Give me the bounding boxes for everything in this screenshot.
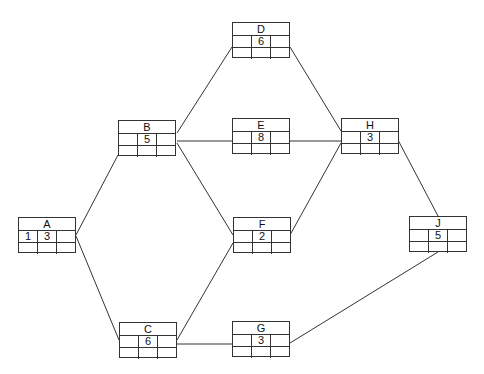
node-cell bbox=[253, 243, 272, 254]
node-cell bbox=[139, 348, 158, 359]
node-cell bbox=[138, 146, 157, 157]
node-cell bbox=[410, 242, 429, 253]
edge-f-h bbox=[290, 143, 341, 235]
node-j: J5 bbox=[409, 216, 467, 252]
node-cell bbox=[429, 242, 448, 253]
node-cell bbox=[342, 144, 361, 155]
node-cell bbox=[448, 242, 466, 253]
node-duration-row: 5 bbox=[119, 134, 175, 146]
node-cell bbox=[233, 132, 252, 143]
edge-a-c bbox=[76, 236, 119, 340]
node-cell bbox=[158, 336, 176, 347]
node-cell bbox=[271, 36, 289, 47]
node-duration-row: 3 bbox=[342, 132, 398, 144]
node-cell: 5 bbox=[138, 134, 157, 145]
edge-g-j bbox=[290, 252, 438, 343]
edge-b-f bbox=[177, 143, 233, 235]
node-cell bbox=[271, 335, 289, 346]
edge-b-d bbox=[177, 47, 232, 133]
node-schedule-row bbox=[234, 243, 290, 254]
node-cell bbox=[120, 336, 139, 347]
node-duration-row: 5 bbox=[410, 230, 466, 242]
node-e: E8 bbox=[232, 118, 290, 154]
node-cell bbox=[271, 48, 289, 59]
edge-a-b bbox=[76, 155, 118, 235]
node-duration-row: 2 bbox=[234, 231, 290, 243]
node-cell bbox=[233, 335, 252, 346]
edge-d-h bbox=[290, 47, 341, 131]
node-a: A13 bbox=[18, 217, 76, 253]
node-cell bbox=[234, 231, 253, 242]
node-cell bbox=[272, 231, 290, 242]
node-cell bbox=[234, 243, 253, 254]
node-cell bbox=[252, 144, 271, 155]
node-cell bbox=[272, 243, 290, 254]
node-cell: 6 bbox=[252, 36, 271, 47]
node-schedule-row bbox=[342, 144, 398, 155]
node-cell bbox=[252, 48, 271, 59]
node-cell bbox=[380, 144, 398, 155]
node-cell bbox=[157, 146, 175, 157]
node-duration-row: 8 bbox=[233, 132, 289, 144]
node-cell bbox=[252, 347, 271, 358]
node-cell bbox=[233, 144, 252, 155]
node-cell bbox=[448, 230, 466, 241]
node-cell bbox=[57, 231, 75, 242]
node-cell: 5 bbox=[429, 230, 448, 241]
node-cell: 3 bbox=[361, 132, 380, 143]
node-cell bbox=[120, 348, 139, 359]
node-cell bbox=[119, 146, 138, 157]
node-cell bbox=[233, 347, 252, 358]
edge-c-f bbox=[177, 243, 233, 340]
node-cell bbox=[157, 134, 175, 145]
node-c: C6 bbox=[119, 322, 177, 358]
node-cell bbox=[271, 347, 289, 358]
node-schedule-row bbox=[233, 144, 289, 155]
node-cell bbox=[19, 243, 38, 254]
node-schedule-row bbox=[233, 48, 289, 59]
node-schedule-row bbox=[119, 146, 175, 157]
node-cell bbox=[158, 348, 176, 359]
node-cell: 3 bbox=[252, 335, 271, 346]
node-duration-row: 6 bbox=[120, 336, 176, 348]
node-cell bbox=[271, 132, 289, 143]
node-cell bbox=[119, 134, 138, 145]
node-duration-row: 13 bbox=[19, 231, 75, 243]
node-cell bbox=[271, 144, 289, 155]
node-cell bbox=[233, 36, 252, 47]
node-g: G3 bbox=[232, 321, 290, 357]
node-schedule-row bbox=[19, 243, 75, 254]
node-d: D6 bbox=[232, 22, 290, 58]
node-cell bbox=[342, 132, 361, 143]
node-cell bbox=[38, 243, 57, 254]
node-cell: 3 bbox=[38, 231, 57, 242]
node-cell bbox=[410, 230, 429, 241]
node-cell bbox=[380, 132, 398, 143]
node-cell: 6 bbox=[139, 336, 158, 347]
node-cell bbox=[233, 48, 252, 59]
edge-h-j bbox=[398, 140, 438, 216]
node-cell: 2 bbox=[253, 231, 272, 242]
node-h: H3 bbox=[341, 118, 399, 154]
node-b: B5 bbox=[118, 120, 176, 156]
node-schedule-row bbox=[233, 347, 289, 358]
node-cell bbox=[361, 144, 380, 155]
node-duration-row: 6 bbox=[233, 36, 289, 48]
node-cell bbox=[57, 243, 75, 254]
node-cell: 8 bbox=[252, 132, 271, 143]
node-cell: 1 bbox=[19, 231, 38, 242]
node-duration-row: 3 bbox=[233, 335, 289, 347]
node-f: F2 bbox=[233, 217, 291, 253]
node-schedule-row bbox=[410, 242, 466, 253]
node-schedule-row bbox=[120, 348, 176, 359]
